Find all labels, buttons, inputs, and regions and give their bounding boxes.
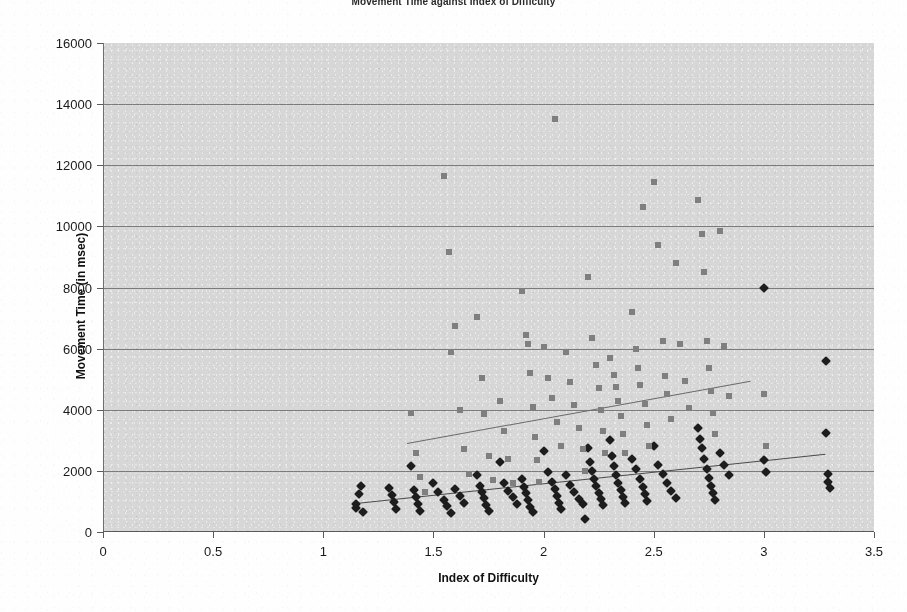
chart-title: Movement Time against Index of Difficult… — [0, 0, 907, 8]
x-tick-mark — [213, 532, 214, 538]
data-point-square — [474, 314, 480, 320]
data-point-square — [525, 341, 531, 347]
data-point-square — [461, 446, 467, 452]
gridline — [103, 104, 874, 105]
data-point-square — [618, 413, 624, 419]
data-point-square — [620, 431, 626, 437]
y-tick-mark — [97, 165, 103, 166]
data-point-diamond — [695, 434, 705, 444]
data-point-square — [510, 480, 516, 486]
data-point-square — [413, 450, 419, 456]
data-point-diamond — [697, 443, 707, 453]
data-point-square — [662, 373, 668, 379]
data-point-square — [567, 379, 573, 385]
data-point-diamond — [653, 460, 663, 470]
data-point-diamond — [446, 508, 456, 518]
data-point-square — [651, 179, 657, 185]
data-point-square — [677, 341, 683, 347]
y-tick-label: 14000 — [30, 97, 92, 112]
x-axis-line — [103, 531, 874, 532]
x-axis-title: Index of Difficulty — [103, 571, 874, 585]
data-point-square — [596, 385, 602, 391]
data-point-square — [710, 410, 716, 416]
data-point-square — [466, 471, 472, 477]
y-tick-label: 10000 — [30, 219, 92, 234]
data-point-square — [712, 431, 718, 437]
data-point-square — [629, 309, 635, 315]
data-point-square — [642, 401, 648, 407]
data-point-square — [585, 274, 591, 280]
data-point-square — [668, 416, 674, 422]
data-point-diamond — [495, 457, 505, 467]
data-point-square — [408, 410, 414, 416]
data-point-diamond — [578, 500, 588, 510]
data-point-diamond — [605, 435, 615, 445]
x-tick-mark — [654, 532, 655, 538]
data-point-square — [695, 197, 701, 203]
data-point-diamond — [719, 460, 729, 470]
data-point-square — [501, 428, 507, 434]
data-point-square — [481, 411, 487, 417]
y-tick-label: 2000 — [30, 463, 92, 478]
data-point-square — [717, 228, 723, 234]
data-point-square — [673, 260, 679, 266]
data-point-square — [490, 477, 496, 483]
data-point-square — [549, 395, 555, 401]
gridline — [103, 349, 874, 350]
data-point-square — [761, 391, 767, 397]
data-point-diamond — [693, 423, 703, 433]
x-tick-label: 0.5 — [204, 544, 222, 559]
data-point-diamond — [598, 500, 608, 510]
y-tick-label: 0 — [30, 525, 92, 540]
data-point-diamond — [406, 461, 416, 471]
data-point-square — [706, 365, 712, 371]
data-point-diamond — [539, 446, 549, 456]
x-tick-label: 3 — [760, 544, 767, 559]
data-point-square — [446, 249, 452, 255]
data-point-square — [763, 443, 769, 449]
data-point-square — [563, 349, 569, 355]
data-point-square — [452, 323, 458, 329]
data-point-square — [602, 450, 608, 456]
data-point-diamond — [759, 455, 769, 465]
data-point-square — [613, 384, 619, 390]
x-tick-label: 0 — [99, 544, 106, 559]
data-point-diamond — [607, 451, 617, 461]
data-point-square — [534, 457, 540, 463]
data-point-square — [505, 456, 511, 462]
x-tick-mark — [764, 532, 765, 538]
data-point-square — [721, 343, 727, 349]
x-tick-mark — [323, 532, 324, 538]
y-tick-mark — [97, 43, 103, 44]
data-point-diamond — [704, 473, 714, 483]
y-tick-mark — [97, 471, 103, 472]
data-point-square — [699, 231, 705, 237]
data-point-square — [519, 288, 525, 294]
x-tick-label: 1.5 — [424, 544, 442, 559]
data-point-diamond — [821, 356, 831, 366]
data-point-square — [633, 346, 639, 352]
y-tick-mark — [97, 226, 103, 227]
data-point-square — [523, 332, 529, 338]
y-tick-label: 4000 — [30, 402, 92, 417]
data-point-square — [611, 372, 617, 378]
data-point-square — [479, 375, 485, 381]
gridline — [103, 471, 874, 472]
data-point-diamond — [636, 474, 646, 484]
data-point-square — [541, 344, 547, 350]
y-tick-mark — [97, 349, 103, 350]
data-point-square — [576, 425, 582, 431]
data-point-square — [682, 378, 688, 384]
y-tick-label: 16000 — [30, 36, 92, 51]
y-tick-mark — [97, 410, 103, 411]
gridline — [103, 165, 874, 166]
data-point-square — [486, 453, 492, 459]
chart-page: Movement Time against Index of Difficult… — [0, 0, 907, 612]
data-point-diamond — [580, 514, 590, 524]
data-point-square — [644, 422, 650, 428]
data-point-diamond — [821, 428, 831, 438]
x-tick-label: 2.5 — [645, 544, 663, 559]
data-point-square — [554, 419, 560, 425]
data-point-square — [637, 382, 643, 388]
data-point-square — [545, 375, 551, 381]
